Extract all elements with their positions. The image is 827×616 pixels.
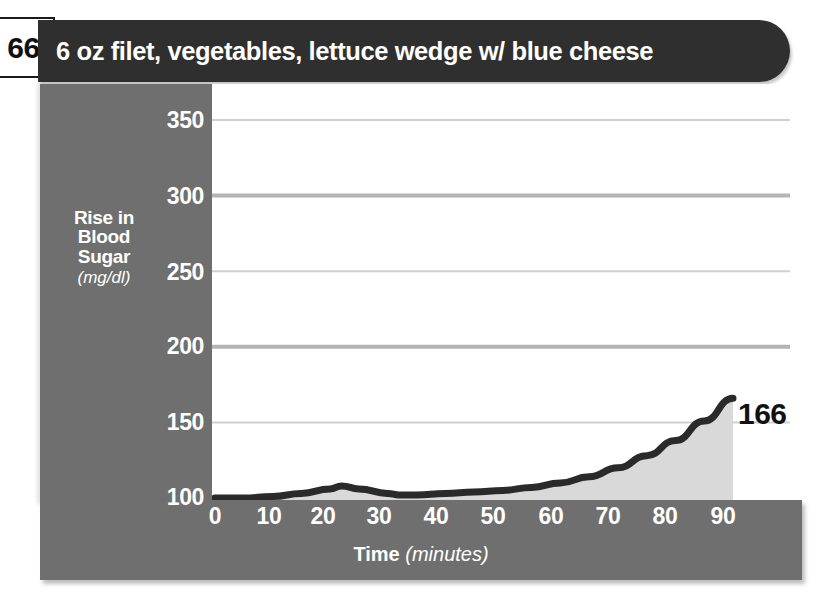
chart-page: 66 6 oz filet, vegetables, lettuce wedge… bbox=[0, 0, 827, 616]
x-axis-title-main: Time bbox=[353, 543, 399, 565]
x-tick-10: 10 bbox=[247, 503, 291, 530]
y-axis-title-line1: Rise in bbox=[48, 208, 160, 227]
x-tick-40: 40 bbox=[414, 503, 458, 530]
chart-svg bbox=[212, 84, 802, 500]
plot-area bbox=[212, 84, 802, 500]
x-axis-title: Time (minutes) bbox=[40, 543, 802, 566]
x-tick-0: 0 bbox=[193, 503, 237, 530]
x-tick-80: 80 bbox=[643, 503, 687, 530]
end-value-label: 166 bbox=[738, 397, 787, 431]
x-tick-50: 50 bbox=[471, 503, 515, 530]
y-axis-title-line2: Blood bbox=[48, 227, 160, 246]
y-tick-250: 250 bbox=[134, 259, 204, 286]
title-bar: 6 oz filet, vegetables, lettuce wedge w/… bbox=[38, 20, 790, 82]
x-tick-20: 20 bbox=[301, 503, 345, 530]
y-tick-350: 350 bbox=[134, 107, 204, 134]
y-tick-300: 300 bbox=[134, 183, 204, 210]
y-tick-150: 150 bbox=[134, 409, 204, 436]
x-tick-60: 60 bbox=[529, 503, 573, 530]
x-axis-unit: (minutes) bbox=[405, 543, 488, 565]
x-tick-70: 70 bbox=[586, 503, 630, 530]
page-title: 6 oz filet, vegetables, lettuce wedge w/… bbox=[56, 20, 760, 82]
y-axis-panel bbox=[40, 84, 212, 540]
x-tick-30: 30 bbox=[357, 503, 401, 530]
y-tick-200: 200 bbox=[134, 333, 204, 360]
x-tick-90: 90 bbox=[701, 503, 745, 530]
